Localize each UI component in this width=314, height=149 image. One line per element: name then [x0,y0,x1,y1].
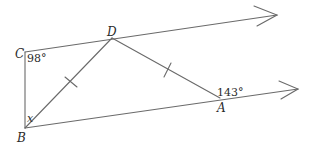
point-label-A: A [216,101,226,115]
segment-DA [112,38,220,98]
point-label-D: D [106,25,117,39]
ray-top-line [25,15,277,52]
ray-bottom-line [25,89,298,128]
angle-label-B-x: x [27,112,34,125]
angle-label-C: 98° [27,52,47,65]
geometry-diagram: C B D A 98° 143° x [0,0,314,149]
point-label-C: C [15,47,24,61]
point-label-B: B [16,131,26,145]
angle-label-A: 143° [217,86,244,99]
